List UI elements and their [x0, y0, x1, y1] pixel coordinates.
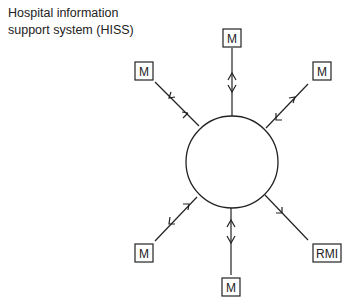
node-label: M: [139, 247, 149, 261]
arrow-top-left-inward: [182, 112, 188, 118]
node-bottom-left: M: [135, 244, 153, 262]
connector-top-left: [155, 82, 199, 126]
connector-top-right: [266, 84, 308, 128]
hiss-diagram: M M M M M RMI: [0, 0, 357, 298]
node-top-right: M: [313, 62, 331, 80]
node-bottom: M: [222, 278, 240, 296]
connector-bottom-right: [265, 195, 308, 240]
node-label: RMI: [316, 247, 338, 261]
node-label: M: [227, 32, 237, 46]
arrow-top-left-outward: [169, 92, 175, 98]
connector-bottom-left: [155, 197, 197, 241]
node-top-left: M: [135, 62, 153, 80]
hiss-hub-circle: [186, 116, 278, 208]
node-label: M: [226, 281, 236, 295]
node-label: M: [139, 65, 149, 79]
node-top: M: [223, 29, 241, 47]
node-label: M: [317, 65, 327, 79]
node-bottom-right-rmi: RMI: [313, 244, 341, 262]
